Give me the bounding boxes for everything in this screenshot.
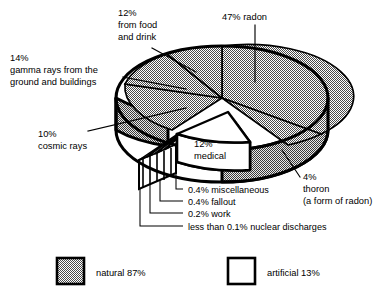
label-gamma-rays-line2: gamma rays from the bbox=[10, 65, 98, 75]
label-nuclear-discharges: less than 0.1% nuclear discharges bbox=[188, 222, 327, 232]
label-work: 0.2% work bbox=[188, 209, 231, 219]
legend-label-natural: natural 87% bbox=[96, 268, 146, 278]
label-food-and-drink-line3: and drink bbox=[118, 32, 157, 42]
label-fallout: 0.4% fallout bbox=[188, 197, 236, 207]
label-food-and-drink-line1: 12% bbox=[118, 8, 137, 18]
label-food-and-drink-line2: from food bbox=[118, 20, 157, 30]
label-gamma-rays-line3: ground and buildings bbox=[10, 77, 97, 87]
label-thoron-line2: thoron bbox=[303, 184, 329, 194]
label-medical-line1: 12% bbox=[194, 139, 213, 149]
label-miscellaneous: 0.4% miscellaneous bbox=[188, 185, 269, 195]
shaded-square-icon bbox=[57, 258, 84, 284]
radiation-sources-pie-chart: 47% radon 12% from food and drink 14% ga… bbox=[0, 0, 390, 297]
label-thoron-line3: (a form of radon) bbox=[303, 196, 372, 206]
label-thoron-line1: 4% bbox=[303, 172, 316, 182]
label-radon: 47% radon bbox=[222, 12, 267, 22]
label-cosmic-rays-line1: 10% bbox=[38, 129, 57, 139]
white-square-icon bbox=[228, 258, 255, 284]
legend-label-artificial: artificial 13% bbox=[267, 268, 320, 278]
label-gamma-rays-line1: 14% bbox=[10, 53, 29, 63]
label-cosmic-rays-line2: cosmic rays bbox=[38, 141, 87, 151]
chart-svg: 47% radon 12% from food and drink 14% ga… bbox=[0, 0, 390, 297]
label-medical-line2: medical bbox=[194, 151, 226, 161]
